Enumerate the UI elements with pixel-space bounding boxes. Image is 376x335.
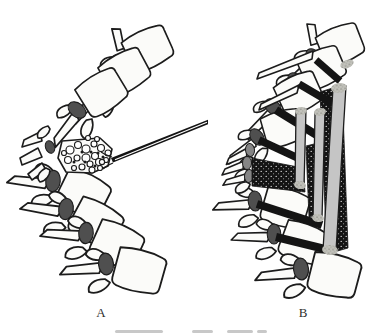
pebble <box>98 166 103 171</box>
pebble-shadow <box>102 156 105 159</box>
needle-lumen-highlight <box>115 122 207 160</box>
caption-fragment <box>115 330 267 333</box>
caption-dash <box>257 330 267 333</box>
panel-b-instrumented-spine: B <box>210 6 371 320</box>
pebble <box>62 151 67 156</box>
figure-label-a: A <box>96 305 106 320</box>
pebble-shadow <box>84 161 87 164</box>
pebble-shadow <box>94 165 97 168</box>
bone-graft-strut <box>313 110 325 220</box>
pebble-shadow <box>73 161 76 164</box>
figure-label-b: B <box>299 305 308 320</box>
pebble <box>79 164 85 170</box>
caption-dash <box>227 330 253 333</box>
bone-graft-strut <box>295 109 306 187</box>
pebble <box>65 157 72 164</box>
pebble-shadow <box>81 151 84 154</box>
pebble-shadow <box>97 152 100 155</box>
panel-a-kyphotic-spine: A <box>3 8 208 320</box>
pebble <box>72 166 77 171</box>
pebble <box>86 136 91 141</box>
caption-dash <box>115 330 163 333</box>
pebble <box>98 145 105 152</box>
needle-tip-droplet <box>99 159 104 164</box>
crush-spike <box>20 148 42 165</box>
crush-hook <box>37 126 50 138</box>
pebble <box>75 142 82 149</box>
pebble <box>87 161 93 167</box>
injection-needle <box>99 120 208 169</box>
pebble <box>89 167 95 173</box>
pebble-shadow <box>90 151 93 154</box>
medical-figure-spine-surgery: A B <box>0 0 376 335</box>
caption-dash <box>192 330 213 333</box>
pebble <box>66 146 74 154</box>
pebble <box>95 137 100 142</box>
spine-illustration-canvas: A B <box>0 0 376 335</box>
pebble <box>74 155 80 161</box>
